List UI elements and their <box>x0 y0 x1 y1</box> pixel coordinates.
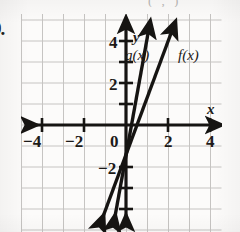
y-axis-label: y <box>133 30 140 45</box>
ytick-label-4: 4 <box>109 34 118 51</box>
coordinate-graph: −4 −2 0 2 4 4 2 −2 y x g(x) f(x) <box>21 14 222 232</box>
function-label-g: g(x) <box>125 48 149 63</box>
ytick-label-2: 2 <box>109 76 118 93</box>
scanned-page: ( , ) 9. <box>0 0 240 232</box>
cropped-text-fragment-above: ( , ) <box>148 0 228 7</box>
function-label-f: f(x) <box>178 48 199 63</box>
xtick-label-2: 2 <box>164 133 173 150</box>
ytick-label-neg2: −2 <box>98 160 116 177</box>
origin-label: 0 <box>110 133 119 150</box>
xtick-label-neg2: −2 <box>65 133 83 150</box>
x-axis-label: x <box>207 102 215 117</box>
problem-number: 9. <box>0 18 4 40</box>
xtick-label-4: 4 <box>206 133 215 150</box>
xtick-label-neg4: −4 <box>23 133 41 150</box>
